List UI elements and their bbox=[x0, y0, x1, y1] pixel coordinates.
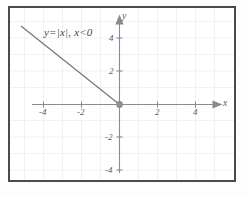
y-tick-label--2: -2 bbox=[105, 133, 113, 142]
y-axis-label: y bbox=[122, 12, 126, 22]
graph-figure: -4 -2 2 4 4 2 -2 -4 x y y=|x|, x<0 bbox=[0, 0, 249, 198]
y-tick-label-2: 2 bbox=[109, 67, 114, 76]
plot-frame: -4 -2 2 4 4 2 -2 -4 x y bbox=[8, 6, 236, 182]
x-tick-label-2: 2 bbox=[155, 108, 160, 117]
x-axis-label: x bbox=[223, 99, 227, 109]
x-tick-label--2: -2 bbox=[77, 108, 85, 117]
origin-endpoint-dot bbox=[116, 101, 123, 108]
y-tick-label--4: -4 bbox=[105, 166, 113, 175]
x-tick-label--4: -4 bbox=[39, 108, 47, 117]
x-tick-label-4: 4 bbox=[193, 108, 198, 117]
y-tick-label-4: 4 bbox=[109, 34, 114, 43]
equation-annotation: y=|x|, x<0 bbox=[44, 26, 93, 38]
